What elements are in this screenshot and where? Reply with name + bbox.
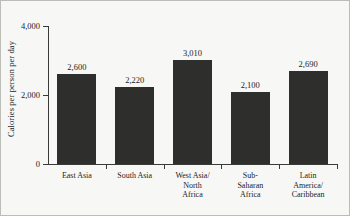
y-axis-line (48, 26, 49, 165)
bar (115, 87, 154, 164)
y-tick-mark (43, 26, 48, 27)
bar-chart-figure: Calories per person per day 02,0004,000 … (0, 0, 350, 216)
x-tick-mark (279, 164, 280, 169)
y-tick-label: 0 (0, 159, 40, 169)
bar (57, 74, 96, 164)
x-category-label: Sub- Saharan Africa (237, 171, 263, 200)
x-tick-mark (164, 164, 165, 169)
bar-value-label: 3,010 (183, 48, 202, 58)
bar (289, 71, 328, 164)
bar-value-label: 2,690 (299, 59, 318, 69)
x-category-label: East Asia (62, 171, 92, 181)
x-tick-mark (337, 164, 338, 169)
x-tick-mark (106, 164, 107, 169)
x-category-label: West Asia/ North Africa (175, 171, 209, 200)
bar-value-label: 2,100 (241, 80, 260, 90)
y-tick-label: 4,000 (0, 21, 40, 31)
bar (231, 92, 270, 164)
x-category-label: South Asia (117, 171, 152, 181)
y-tick-mark (43, 164, 48, 165)
x-category-label: Latin America/ Caribbean (292, 171, 325, 200)
y-tick-label: 2,000 (0, 90, 40, 100)
bar-value-label: 2,220 (125, 75, 144, 85)
bar-value-label: 2,600 (67, 62, 86, 72)
bar (173, 60, 212, 164)
x-axis-line (48, 164, 337, 165)
y-tick-mark (43, 95, 48, 96)
x-tick-mark (221, 164, 222, 169)
y-axis-title: Calories per person per day (6, 41, 16, 137)
